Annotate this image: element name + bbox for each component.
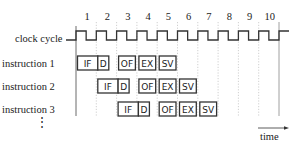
cycle-number: 10 bbox=[265, 11, 276, 22]
cycle-number: 5 bbox=[166, 11, 171, 22]
cycle-number: 7 bbox=[206, 11, 211, 22]
cycle-number: 8 bbox=[227, 11, 232, 22]
cycle-number: 2 bbox=[105, 11, 110, 22]
stage-label: EX bbox=[141, 59, 153, 69]
stage-label: IF bbox=[124, 105, 132, 115]
pipeline-diagram: 12345678910 clock cycle instruction 1IFD… bbox=[0, 0, 301, 144]
instruction-row: instruction 3IFDOFEXSV bbox=[2, 102, 217, 116]
stage-label: D bbox=[120, 82, 127, 92]
clock-waveform bbox=[66, 31, 289, 40]
instruction-label: instruction 3 bbox=[2, 104, 55, 115]
ellipsis-dots: ⋮ bbox=[36, 115, 48, 129]
instruction-row: instruction 2IFDOFEXSV bbox=[2, 79, 196, 93]
stage-label: SV bbox=[162, 59, 175, 69]
stage-label: SV bbox=[202, 105, 215, 115]
cycle-number: 4 bbox=[145, 11, 151, 22]
stage-label: EX bbox=[162, 82, 174, 92]
clock-signal bbox=[66, 31, 289, 40]
stage-label: SV bbox=[182, 82, 195, 92]
stage-label: OF bbox=[161, 105, 173, 115]
clock-cycle-label: clock cycle bbox=[15, 33, 63, 44]
instruction-label: instruction 2 bbox=[2, 81, 55, 92]
cycle-number: 3 bbox=[125, 11, 130, 22]
time-label: time bbox=[260, 131, 279, 142]
stage-label: OF bbox=[121, 59, 133, 69]
instruction-row: instruction 1IFDOFEXSV bbox=[2, 56, 176, 70]
stage-label: EX bbox=[182, 105, 194, 115]
cycle-numbers: 12345678910 bbox=[85, 11, 276, 22]
cycle-number: 6 bbox=[186, 11, 191, 22]
time-arrow bbox=[258, 126, 289, 129]
stage-label: D bbox=[140, 105, 147, 115]
instruction-rows: instruction 1IFDOFEXSVinstruction 2IFDOF… bbox=[2, 56, 217, 116]
cycle-number: 1 bbox=[85, 11, 90, 22]
cycle-number: 9 bbox=[247, 11, 252, 22]
stage-label: OF bbox=[141, 82, 153, 92]
instruction-label: instruction 1 bbox=[2, 58, 55, 69]
stage-label: IF bbox=[84, 59, 92, 69]
stage-label: IF bbox=[104, 82, 112, 92]
stage-label: D bbox=[100, 59, 107, 69]
